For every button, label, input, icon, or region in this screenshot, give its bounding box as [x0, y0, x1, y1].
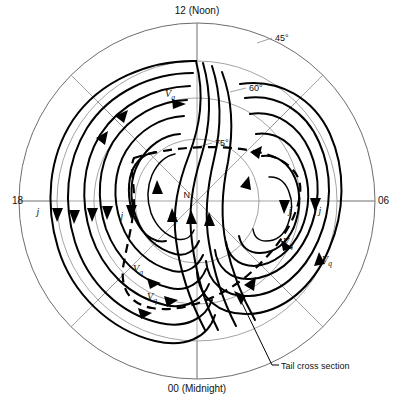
lat60-leader: [230, 88, 246, 92]
polar-convection-diagram: 12 (Noon) 18 06 00 (Midnight) 45° 60° 75…: [0, 0, 395, 402]
latitude-label-60: 60°: [249, 83, 263, 93]
convection-figure-svg: 12 (Noon) 18 06 00 (Midnight) 45° 60° 75…: [0, 0, 395, 402]
arrowhead-dusk-3-down: [87, 208, 98, 222]
arrowhead-dawn-left-mid: [240, 176, 251, 190]
mlt-label-dusk: 18: [12, 195, 24, 206]
dawn-streamline-4: [226, 134, 308, 266]
arrowhead-dusk-outer-down: [52, 208, 63, 222]
tail-cross-section-label: Tail cross section: [281, 361, 350, 371]
mlt-label-midnight: 00 (Midnight): [168, 383, 226, 394]
polar-grid: [19, 23, 375, 379]
pole-label-n: N: [184, 190, 191, 200]
vq-label-dusk-lower: Vq: [133, 263, 143, 277]
mlt-label-dawn: 06: [378, 195, 390, 206]
current-labels: j j j j j: [35, 205, 322, 226]
j-label-dusk-outer: j: [35, 206, 40, 217]
arrowhead-center-up-3: [204, 212, 215, 226]
j-label-dawn-inner: j: [287, 205, 292, 216]
j-label-dawn-outer: j: [317, 205, 322, 216]
dusk-streamline-3: [84, 86, 209, 306]
tail-callout-leader: [238, 296, 272, 365]
latitude-label-75: 75°: [215, 138, 229, 148]
latitude-label-45: 45°: [275, 33, 289, 43]
vq-label-dusk-top: Vq: [165, 88, 175, 102]
arrowhead-dusk-lobe-up: [152, 180, 163, 194]
transpolar-streamline-3: [207, 66, 236, 326]
mlt-label-noon: 12 (Noon): [175, 5, 219, 16]
arrowhead-dawn-upperleft: [250, 146, 262, 159]
arrowhead-center-up-2: [186, 210, 197, 224]
vq-label-dawn-outer: Vq: [322, 254, 332, 268]
lat45-leader: [257, 38, 272, 43]
arrowhead-vq-dusk-lower: [147, 278, 161, 289]
tail-callout-arrowhead: [234, 291, 246, 305]
dawn-streamline-2: [206, 97, 329, 296]
transpolar-streamline-2: [190, 63, 218, 330]
vq-label-dusk-bottom: Vq: [147, 291, 157, 305]
